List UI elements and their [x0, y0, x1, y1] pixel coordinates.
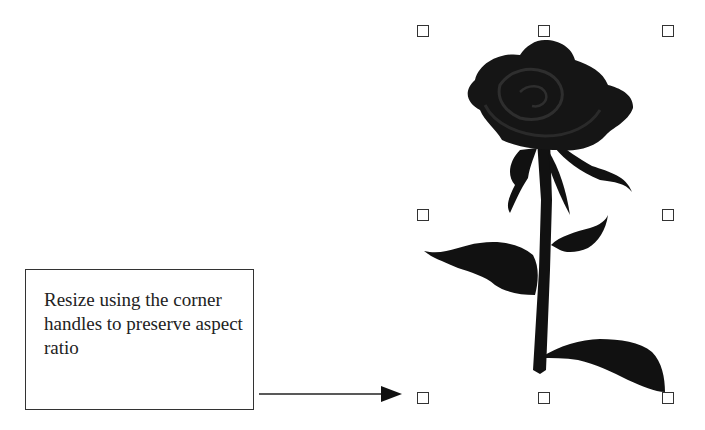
rose-leaf-right-small — [551, 215, 608, 252]
resize-handle-top-right[interactable] — [662, 25, 674, 37]
resize-handle-top-left[interactable] — [417, 25, 429, 37]
resize-handle-middle-right[interactable] — [662, 209, 674, 221]
rose-stem — [533, 140, 552, 374]
rose-sepal-left — [508, 148, 537, 213]
callout-text: Resize using the corner handles to prese… — [44, 288, 244, 360]
resize-handle-bottom-right[interactable] — [662, 392, 674, 404]
rose-leaf-right-bottom — [540, 339, 665, 392]
resize-handle-bottom-left[interactable] — [417, 392, 429, 404]
resize-handle-bottom-center[interactable] — [538, 392, 550, 404]
resize-handle-top-center[interactable] — [538, 25, 550, 37]
callout-box: Resize using the corner handles to prese… — [25, 269, 254, 410]
rose-sepal-right — [555, 144, 632, 192]
resize-handle-middle-left[interactable] — [417, 209, 429, 221]
rose-leaf-left — [424, 242, 538, 295]
arrowhead-icon — [381, 386, 402, 402]
rose-bloom — [468, 40, 633, 150]
